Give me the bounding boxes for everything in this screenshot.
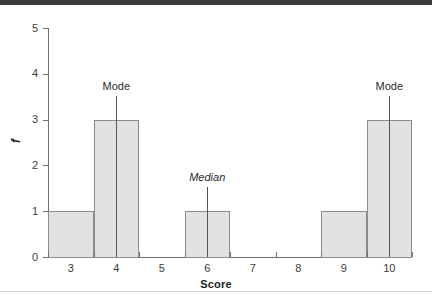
plot-area: 5 4 3 2 1 0 3 4 5 6 7 8 9 10 [0,0,432,300]
x-tick-label-5: 5 [142,262,182,274]
x-axis-title: Score [0,278,432,290]
x-tick-mark-7-8 [276,252,277,257]
y-tick-label-3: 3 [8,114,38,125]
histogram-figure: 5 4 3 2 1 0 3 4 5 6 7 8 9 10 [0,0,432,300]
bottom-divider-rule [0,291,432,292]
y-tick-mark-3 [43,120,48,121]
bar-score-3 [48,211,94,258]
x-tick-mark-5-6 [185,252,186,257]
y-tick-label-4: 4 [8,68,38,79]
y-tick-label-0: 0 [8,252,38,263]
x-tick-label-7: 7 [233,262,273,274]
annotation-leader-line-median [207,187,208,257]
y-tick-mark-4 [43,74,48,75]
y-tick-mark-5 [43,28,48,29]
y-tick-label-2: 2 [8,160,38,171]
x-tick-label-6: 6 [187,262,227,274]
annotation-label-mode-left: Mode [81,80,151,92]
bar-score-9 [321,211,367,258]
x-tick-label-10: 10 [369,262,409,274]
x-tick-mark-8-9 [321,252,322,257]
x-tick-mark-6-7 [230,252,231,257]
x-tick-label-8: 8 [278,262,318,274]
y-tick-mark-2 [43,165,48,166]
y-tick-label-1: 1 [8,206,38,217]
x-tick-mark-right-edge [412,252,413,257]
x-tick-mark-4-5 [139,252,140,257]
annotation-label-mode-right: Mode [354,80,424,92]
x-tick-label-9: 9 [324,262,364,274]
annotation-leader-line-mode-right [389,96,390,257]
x-tick-mark-9-10 [367,252,368,257]
annotation-leader-line-mode-left [116,96,117,257]
annotation-label-median: Median [172,171,242,183]
y-tick-label-5: 5 [8,23,38,34]
y-axis-title: f [9,139,23,143]
x-tick-mark-left-edge [48,252,49,257]
x-tick-label-3: 3 [51,262,91,274]
x-tick-mark-3-4 [94,252,95,257]
x-tick-label-4: 4 [96,262,136,274]
